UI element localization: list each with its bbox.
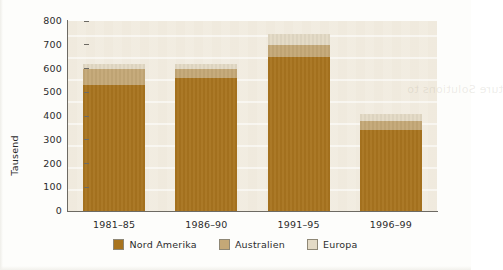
bar-4 [360, 21, 422, 211]
legend-item-europa: Europa [307, 239, 358, 250]
y-tick-label: 100 [30, 181, 62, 192]
bar-segment-nord-amerika [268, 57, 330, 211]
bar-segment-australien [268, 45, 330, 57]
y-tick-mark [84, 187, 89, 188]
y-tick-mark [84, 44, 89, 45]
color-swatch-icon [219, 239, 230, 250]
bar-3 [268, 21, 330, 211]
y-tick-label: 600 [30, 63, 62, 74]
x-tick-label: 1996–99 [351, 219, 431, 230]
y-tick-mark [84, 21, 89, 22]
bar-segment-europa [360, 114, 422, 121]
y-tick-label: 700 [30, 39, 62, 50]
scan-edge-artifact-bottom [0, 266, 471, 270]
bar-segment-europa [83, 64, 145, 69]
legend-item-australien: Australien [219, 239, 285, 250]
bar-segment-australien [175, 69, 237, 79]
y-tick-label: 500 [30, 86, 62, 97]
y-tick-label: 400 [30, 110, 62, 121]
y-tick-mark [84, 211, 89, 212]
bar-2 [175, 21, 237, 211]
y-tick-mark [84, 116, 89, 117]
plot-area: ture Solutions to [68, 21, 437, 211]
legend-label: Europa [323, 239, 358, 250]
bar-segment-australien [83, 69, 145, 86]
bar-1 [83, 21, 145, 211]
y-tick-label: 300 [30, 134, 62, 145]
x-axis-line [67, 211, 438, 212]
y-tick-mark [84, 163, 89, 164]
color-swatch-icon [113, 239, 124, 250]
bar-segment-europa [268, 34, 330, 45]
bar-segment-nord-amerika [175, 78, 237, 211]
scan-edge-artifact [0, 0, 3, 270]
bar-segment-nord-amerika [360, 130, 422, 211]
y-tick-mark [84, 92, 89, 93]
x-tick-label: 1981–85 [74, 219, 154, 230]
chart-legend: Nord AmerikaAustralienEuropa [0, 239, 471, 250]
legend-label: Australien [235, 239, 285, 250]
legend-label: Nord Amerika [129, 239, 196, 250]
bar-segment-australien [360, 121, 422, 131]
color-swatch-icon [307, 239, 318, 250]
y-tick-mark [84, 139, 89, 140]
y-axis-ticks: 0100200300400500600700800 [22, 0, 62, 270]
y-axis-title: Tausend [9, 116, 20, 196]
x-tick-label: 1991–95 [259, 219, 339, 230]
x-tick-label: 1986–90 [166, 219, 246, 230]
y-tick-mark [84, 68, 89, 69]
y-tick-label: 800 [30, 15, 62, 26]
bar-segment-europa [175, 64, 237, 69]
bar-segment-nord-amerika [83, 85, 145, 211]
y-axis-line [67, 20, 68, 212]
y-tick-label: 0 [30, 205, 62, 216]
legend-item-nord-amerika: Nord Amerika [113, 239, 196, 250]
y-tick-label: 200 [30, 158, 62, 169]
